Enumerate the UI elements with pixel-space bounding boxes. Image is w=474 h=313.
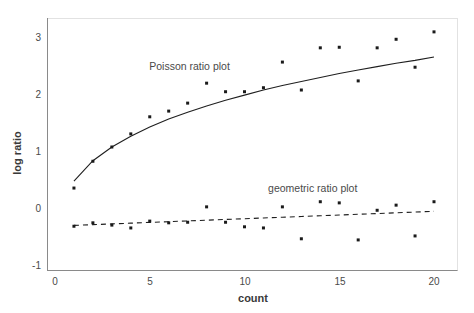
- data-point: [110, 146, 113, 149]
- y-tick-label: 0: [35, 203, 41, 214]
- geometric-series-label: geometric ratio plot: [268, 182, 357, 194]
- data-point: [205, 82, 208, 85]
- data-point: [338, 201, 341, 204]
- data-point: [224, 90, 227, 93]
- x-tick-label: 15: [334, 276, 346, 287]
- data-point: [357, 238, 360, 241]
- y-axis-title: log ratio: [11, 131, 23, 175]
- data-point: [319, 200, 322, 203]
- data-point: [167, 110, 170, 113]
- data-point: [357, 79, 360, 82]
- data-point: [281, 61, 284, 64]
- data-point: [338, 46, 341, 49]
- x-tick-label: 5: [147, 276, 153, 287]
- x-tick-label: 20: [428, 276, 440, 287]
- data-point: [262, 86, 265, 89]
- x-tick-label: 0: [52, 276, 58, 287]
- data-point: [110, 224, 113, 227]
- x-axis-title: count: [238, 292, 268, 304]
- data-point: [243, 90, 246, 93]
- x-tick-label: 10: [239, 276, 251, 287]
- data-point: [72, 225, 75, 228]
- data-point: [205, 205, 208, 208]
- data-point: [319, 46, 322, 49]
- data-point: [72, 187, 75, 190]
- data-point: [300, 237, 303, 240]
- data-point: [224, 221, 227, 224]
- data-point: [433, 30, 436, 33]
- y-tick-label: 1: [35, 146, 41, 157]
- y-tick-label: 3: [35, 32, 41, 43]
- y-tick-label: 2: [35, 89, 41, 100]
- data-point: [91, 221, 94, 224]
- chart-background: [0, 0, 474, 313]
- data-point: [300, 89, 303, 92]
- data-point: [167, 221, 170, 224]
- data-point: [414, 66, 417, 69]
- scatter-chart: 3 2 1 0 -1 0 5 10 15 20 count log ratio …: [0, 0, 474, 313]
- data-point: [395, 204, 398, 207]
- data-point: [433, 200, 436, 203]
- data-point: [414, 234, 417, 237]
- data-point: [186, 221, 189, 224]
- y-tick-label: -1: [32, 260, 41, 271]
- data-point: [281, 205, 284, 208]
- data-point: [243, 225, 246, 228]
- data-point: [262, 226, 265, 229]
- chart-container: 3 2 1 0 -1 0 5 10 15 20 count log ratio …: [0, 0, 474, 313]
- data-point: [129, 132, 132, 135]
- data-point: [148, 115, 151, 118]
- data-point: [91, 160, 94, 163]
- data-point: [376, 209, 379, 212]
- data-point: [395, 38, 398, 41]
- data-point: [148, 220, 151, 223]
- data-point: [186, 102, 189, 105]
- data-point: [376, 46, 379, 49]
- poisson-series-label: Poisson ratio plot: [149, 60, 230, 72]
- data-point: [129, 226, 132, 229]
